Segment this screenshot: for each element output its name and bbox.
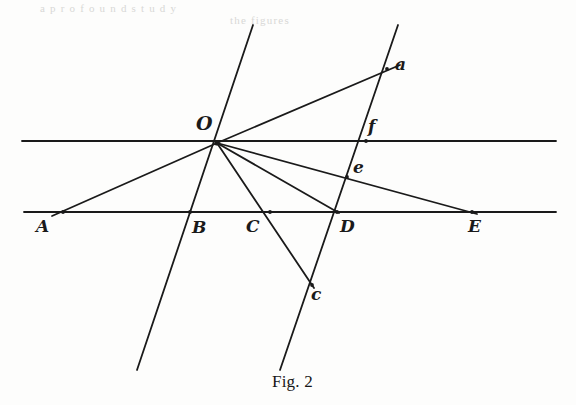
point-label-c: c — [311, 286, 321, 303]
point-marker-f — [364, 139, 368, 143]
point-label-A: A — [36, 218, 49, 235]
transversal-line-through-B — [137, 25, 253, 370]
point-label-O: O — [196, 114, 213, 133]
point-label-C: C — [246, 218, 260, 235]
point-marker-E — [470, 210, 474, 214]
transversal-line-through-D — [280, 25, 398, 370]
point-marker-e — [345, 175, 349, 179]
point-label-D: D — [340, 218, 355, 235]
point-label-f: f — [368, 118, 375, 135]
point-marker-a — [385, 67, 389, 71]
point-marker-O — [214, 140, 219, 145]
point-marker-C — [268, 210, 272, 214]
point-marker-A — [61, 210, 65, 214]
geometry-drawing — [0, 0, 576, 405]
point-label-a: a — [395, 56, 406, 73]
point-label-B: B — [192, 219, 206, 236]
point-label-E: E — [468, 218, 481, 235]
figure-caption: Fig. 2 — [272, 372, 313, 392]
ray-O-to-D — [217, 143, 339, 213]
point-marker-D — [335, 210, 339, 214]
figure-container: a p r o f o u n d s t u d y the figures … — [0, 0, 576, 405]
point-label-e: e — [353, 159, 364, 176]
point-marker-B — [188, 210, 192, 214]
